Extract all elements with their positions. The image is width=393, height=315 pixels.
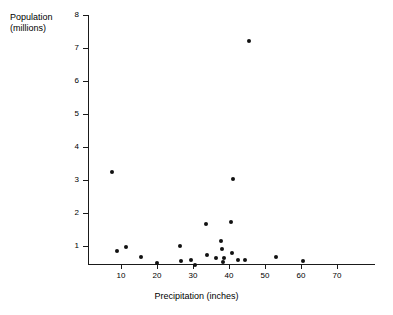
data-point: [236, 258, 240, 262]
data-point: [247, 39, 251, 43]
data-point: [231, 177, 235, 181]
data-point: [243, 258, 247, 262]
plot-data-area: [0, 0, 393, 315]
data-point: [219, 239, 223, 243]
data-point: [301, 259, 305, 263]
data-point: [205, 253, 209, 257]
x-axis-title: Precipitation (inches): [0, 291, 393, 301]
data-point: [155, 261, 159, 265]
data-point: [178, 244, 182, 248]
data-point: [274, 255, 278, 259]
data-point: [124, 245, 128, 249]
data-point: [222, 256, 226, 260]
data-point: [110, 170, 114, 174]
data-point: [221, 260, 225, 264]
data-point: [204, 222, 208, 226]
data-point: [189, 258, 193, 262]
data-point: [230, 251, 234, 255]
data-point: [179, 259, 183, 263]
data-point: [139, 255, 143, 259]
data-point: [115, 249, 119, 253]
data-point: [193, 263, 197, 267]
data-point: [229, 220, 233, 224]
data-point: [220, 247, 224, 251]
data-point: [214, 256, 218, 260]
scatter-plot-figure: Population(millions) 12345678 1020304050…: [0, 0, 393, 315]
